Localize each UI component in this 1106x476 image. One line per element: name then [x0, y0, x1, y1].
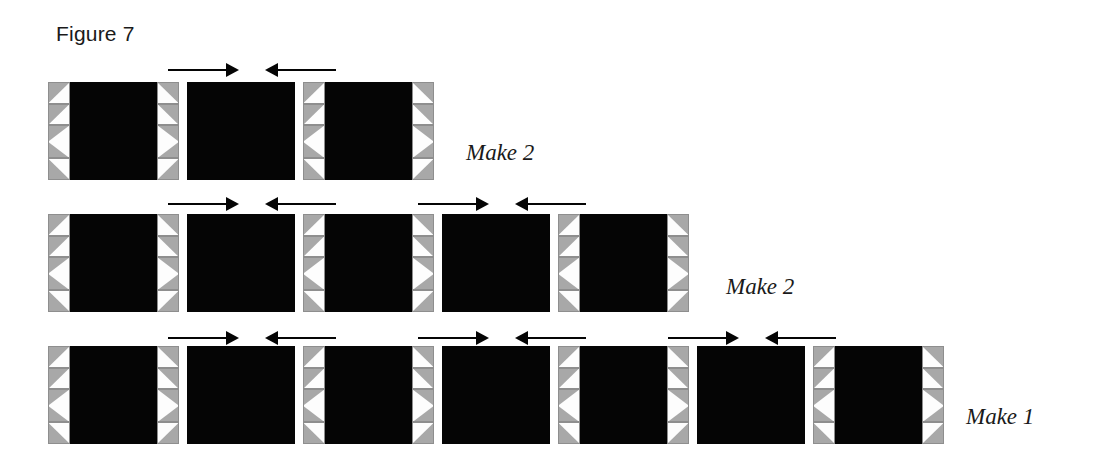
flying-geese-unit — [667, 389, 689, 422]
arrow-head — [226, 197, 239, 211]
half-square-triangle-unit — [157, 236, 179, 258]
half-square-triangle-unit — [48, 368, 70, 390]
half-square-triangle-unit — [412, 82, 434, 104]
triangle-patch — [558, 236, 580, 258]
half-square-triangle-unit — [667, 368, 689, 390]
triangle-patch — [667, 214, 689, 236]
half-square-triangle-unit — [48, 346, 70, 368]
triangle-patch — [558, 214, 580, 236]
arrow-head — [726, 331, 739, 345]
half-square-triangle-unit — [412, 104, 434, 126]
triangle-patch — [558, 290, 580, 312]
dark-fabric-center — [325, 346, 412, 444]
triangle-patch — [303, 422, 325, 444]
half-square-triangle-unit — [48, 290, 70, 312]
half-square-triangle-unit — [412, 214, 434, 236]
half-square-triangle-unit — [157, 214, 179, 236]
triangle-patch — [922, 422, 944, 444]
dark-fabric-square — [187, 214, 295, 312]
arrow-shaft — [168, 69, 226, 71]
flying-geese-strip-left — [303, 82, 325, 180]
half-square-triangle-unit — [922, 346, 944, 368]
arrow-shaft — [528, 337, 586, 339]
make-quantity-label: Make 1 — [966, 404, 1034, 430]
pieced-block — [48, 82, 179, 180]
half-square-triangle-unit — [667, 422, 689, 444]
flying-geese-strip-left — [558, 214, 580, 312]
half-square-triangle-unit — [558, 236, 580, 258]
flying-geese-strip-left — [303, 214, 325, 312]
flying-geese-unit — [922, 389, 944, 422]
dark-fabric-center — [580, 214, 667, 312]
triangle-patch — [157, 158, 179, 180]
half-square-triangle-unit — [303, 236, 325, 258]
half-square-triangle-unit — [922, 368, 944, 390]
arrow-shaft — [778, 337, 836, 339]
arrow-head — [265, 197, 278, 211]
flying-geese-strip-right — [157, 82, 179, 180]
flying-geese-strip-left — [558, 346, 580, 444]
dark-fabric-center — [835, 346, 922, 444]
half-square-triangle-unit — [412, 368, 434, 390]
dark-fabric-center — [325, 82, 412, 180]
triangle-patch — [412, 422, 434, 444]
half-square-triangle-unit — [558, 346, 580, 368]
half-square-triangle-unit — [157, 422, 179, 444]
arrow-shaft — [278, 203, 336, 205]
row-2 — [48, 214, 1048, 312]
half-square-triangle-unit — [157, 290, 179, 312]
half-square-triangle-unit — [667, 290, 689, 312]
arrow-left-icon — [265, 330, 336, 346]
plain-square-block — [187, 214, 295, 312]
half-square-triangle-unit — [813, 422, 835, 444]
dark-fabric-square — [442, 214, 550, 312]
triangle-patch — [48, 158, 70, 180]
triangle-patch — [922, 346, 944, 368]
half-square-triangle-unit — [157, 104, 179, 126]
half-square-triangle-unit — [303, 104, 325, 126]
arrow-head — [226, 331, 239, 345]
triangle-patch — [558, 346, 580, 368]
flying-geese-strip-left — [303, 346, 325, 444]
triangle-patch — [412, 290, 434, 312]
half-square-triangle-unit — [922, 422, 944, 444]
triangle-patch — [412, 158, 434, 180]
triangle-patch — [303, 214, 325, 236]
half-square-triangle-unit — [303, 422, 325, 444]
arrow-shaft — [668, 337, 726, 339]
arrow-right-icon — [418, 330, 489, 346]
flying-geese-strip-left — [48, 346, 70, 444]
triangle-patch — [412, 214, 434, 236]
flying-geese-strip-right — [412, 214, 434, 312]
triangle-patch — [667, 422, 689, 444]
flying-geese-strip-left — [813, 346, 835, 444]
half-square-triangle-unit — [48, 214, 70, 236]
triangle-patch — [667, 236, 689, 258]
arrow-left-icon — [265, 196, 336, 212]
triangle-patch — [48, 214, 70, 236]
plain-square-block — [697, 346, 805, 444]
arrow-left-icon — [265, 62, 336, 78]
flying-geese-unit — [157, 257, 179, 290]
arrow-head — [476, 197, 489, 211]
figure-title: Figure 7 — [56, 22, 135, 46]
pieced-block — [48, 214, 179, 312]
arrow-shaft — [278, 69, 336, 71]
half-square-triangle-unit — [303, 346, 325, 368]
flying-geese-unit — [48, 389, 70, 422]
flying-geese-unit — [558, 389, 580, 422]
half-square-triangle-unit — [813, 368, 835, 390]
dark-fabric-center — [70, 346, 157, 444]
triangle-patch — [157, 346, 179, 368]
flying-geese-strip-left — [48, 82, 70, 180]
half-square-triangle-unit — [412, 346, 434, 368]
triangle-patch — [48, 422, 70, 444]
triangle-patch — [412, 368, 434, 390]
triangle-patch — [48, 368, 70, 390]
pieced-block — [48, 346, 179, 444]
half-square-triangle-unit — [412, 158, 434, 180]
flying-geese-strip-right — [667, 214, 689, 312]
arrow-head — [515, 197, 528, 211]
arrow-right-icon — [168, 196, 239, 212]
dark-fabric-square — [187, 82, 295, 180]
